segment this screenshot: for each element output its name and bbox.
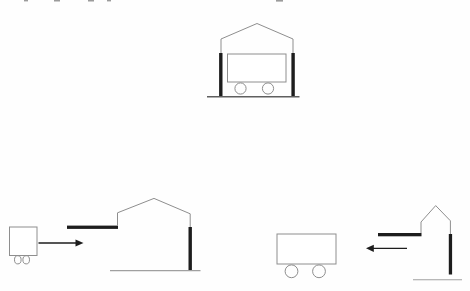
garage-front-door-open-bar — [378, 233, 422, 236]
garage-outline — [118, 198, 191, 227]
cart-wheel-right — [262, 83, 273, 94]
cart-wheel-left — [14, 256, 21, 264]
cart-body — [277, 234, 336, 264]
cropped-text-remnant — [107, 0, 111, 1]
cropped-text-remnant — [24, 0, 28, 1]
cropped-text-remnant — [54, 0, 60, 2]
garage-left-door-closed-bar — [219, 53, 222, 97]
velocity-arrow-head — [76, 239, 84, 246]
panel-garage-with-cart-inside — [207, 24, 300, 97]
figure-page — [0, 0, 470, 291]
cropped-text-remnant — [276, 0, 283, 2]
garage-front-door-open-bar — [67, 226, 118, 229]
garage-roof-outline — [221, 24, 293, 40]
garage-back-door-closed-bar — [449, 234, 452, 275]
garage-right-door-closed-bar — [291, 53, 294, 97]
garage-back-door-closed-bar — [189, 227, 192, 270]
cart-wheel-left — [285, 265, 298, 278]
panel-garage-approaching-cart — [277, 206, 462, 280]
garage-outline — [421, 206, 450, 235]
cropped-text-remnant — [88, 0, 94, 2]
cart-wheel-right — [313, 265, 326, 278]
cart-body — [10, 227, 38, 256]
diagram-canvas — [0, 0, 470, 291]
cart-body — [228, 54, 287, 82]
cart-wheel-left — [235, 83, 246, 94]
velocity-arrow-head — [366, 245, 374, 252]
panel-cart-approaching-garage — [10, 198, 201, 270]
cart-wheel-right — [23, 256, 30, 264]
